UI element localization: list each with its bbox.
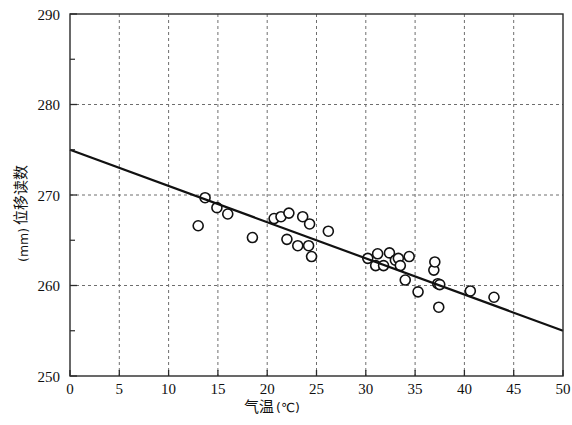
- data-point: [400, 275, 410, 285]
- x-axis-unit-text: (℃): [276, 400, 300, 415]
- x-axis-tick-label: 40: [457, 381, 472, 397]
- data-point: [247, 233, 257, 243]
- data-point: [284, 208, 294, 218]
- y-axis-tick-label: 290: [38, 7, 61, 23]
- x-axis-title-text: 气温: [244, 398, 274, 416]
- data-point: [434, 302, 444, 312]
- x-axis-tick-label: 20: [260, 381, 275, 397]
- x-axis-tick-label: 35: [408, 381, 423, 397]
- x-axis-title: 气温 (℃): [244, 398, 300, 416]
- chart-canvas: 05101520253035404550250260270280290 气温 (…: [0, 0, 572, 425]
- data-point: [404, 252, 414, 262]
- x-axis-tick-label: 30: [358, 381, 373, 397]
- data-point: [373, 249, 383, 259]
- y-axis-tick-label: 260: [38, 278, 61, 294]
- y-axis-tick-label: 250: [38, 369, 61, 385]
- data-point: [193, 221, 203, 231]
- data-point: [413, 287, 423, 297]
- x-axis-tick-label: 25: [309, 381, 324, 397]
- data-point: [293, 241, 303, 251]
- data-point: [304, 241, 314, 251]
- data-point: [430, 257, 440, 267]
- x-axis-tick-label: 50: [556, 381, 571, 397]
- x-axis-tick-label: 45: [506, 381, 521, 397]
- x-axis-tick-label: 15: [210, 381, 225, 397]
- data-point: [307, 252, 317, 262]
- data-point: [323, 226, 333, 236]
- data-point: [305, 219, 315, 229]
- x-axis-tick-label: 0: [66, 381, 74, 397]
- y-axis-tick-label: 280: [38, 97, 61, 113]
- y-axis-title-text: 位移读数: [12, 165, 30, 225]
- temperature-displacement-scatter-chart: 05101520253035404550250260270280290 气温 (…: [0, 0, 572, 425]
- data-point: [223, 209, 233, 219]
- data-point: [282, 234, 292, 244]
- x-axis-tick-label: 10: [161, 381, 176, 397]
- y-axis-unit-text: (mm): [16, 228, 31, 262]
- data-point: [489, 292, 499, 302]
- y-axis-unit: (mm): [16, 228, 31, 262]
- y-axis-tick-label: 270: [38, 188, 61, 204]
- y-axis-title: 位移读数: [12, 165, 30, 225]
- x-axis-tick-label: 5: [116, 381, 124, 397]
